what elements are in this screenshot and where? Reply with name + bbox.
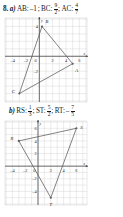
answer-b-1-fraction: 1 3 [28,105,33,117]
y-tick-label: –2 [31,176,36,181]
answer-a-3-fraction: 4 7 [74,3,79,15]
graph-abc-svg: –4–202464–2xyABC [3,16,89,104]
data-point [75,127,77,129]
point-label: B [46,20,49,25]
x-tick-label: 2 [52,58,54,63]
answer-separator-b2: ; [51,108,53,115]
answer-a-1-value: –1 [30,6,37,13]
answer-a-1-name: AB: [17,6,29,13]
answer-b-3-sign: – [66,108,70,115]
x-axis-label: x [82,161,85,165]
answer-line-b: b) RS: 1 3 ; ST: 5 2 ; RT: – 7 5 [9,105,120,117]
data-point [18,140,20,142]
answer-b-3-name: RT: [55,108,65,115]
answer-b-2-name: ST: [36,108,46,115]
point-label: R [9,136,13,141]
y-tick-label: –4 [31,189,37,194]
answer-a-3-denominator: 7 [75,9,79,16]
point-label: A [74,68,78,73]
graph-rst-svg: –4–20246642–2–4xyRST [3,119,89,207]
answer-b-2-denominator: 2 [47,111,51,118]
data-point [50,196,52,198]
answer-b-1-denominator: 3 [28,111,32,118]
x-tick-label: 2 [50,167,52,172]
y-tick-label: 2 [34,151,36,156]
answer-separator-b1: ; [33,108,35,115]
x-tick-label: 0 [35,58,37,63]
point-label: T [50,202,53,207]
answer-b-3-denominator: 5 [71,111,75,118]
answer-a-2-name: BC: [41,6,52,13]
graph-triangle-rst: –4–20246642–2–4xyRST [3,119,120,207]
answer-key-page: 8. a) AB: –1 ; BC: 9 2 ; AC: 4 7 –4–2024… [0,0,123,217]
answer-b-2-fraction: 5 2 [47,105,52,117]
data-point [72,63,74,65]
data-point [41,26,43,28]
part-label-b: b) [9,108,15,115]
problem-number: 8. [3,6,8,13]
y-tick-label: –2 [33,69,38,74]
answer-a-3-name: AC: [62,6,74,13]
answer-b-1-name: RS: [16,108,27,115]
y-axis-label: y [39,121,42,125]
answer-separator-a2: ; [58,6,60,13]
data-point [18,93,20,95]
y-axis-label: y [40,19,43,23]
x-tick-label: –4 [10,58,16,63]
x-tick-label: –2 [23,58,28,63]
answer-separator-a1: ; [38,6,40,13]
answer-b-3-fraction: 7 5 [70,105,75,117]
answer-a-2-denominator: 2 [54,9,58,16]
answer-a-2-fraction: 9 2 [53,3,58,15]
x-axis-label: x [82,52,85,56]
part-label-a: a) [10,6,16,13]
graph-triangle-abc: –4–202464–2xyABC [3,16,120,104]
answer-line-a: 8. a) AB: –1 ; BC: 9 2 ; AC: 4 7 [3,3,120,15]
x-tick-label: –2 [22,167,27,172]
x-tick-label: –4 [9,167,15,172]
